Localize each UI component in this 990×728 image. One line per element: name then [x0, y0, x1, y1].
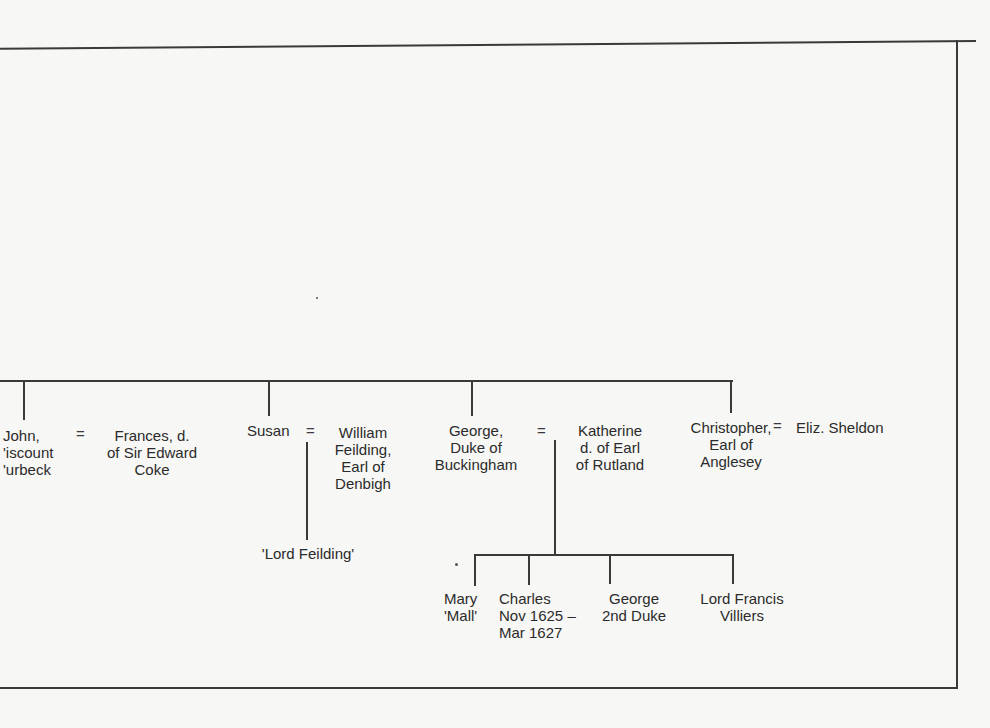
sibling-bar — [0, 380, 733, 382]
person-christopher: Christopher, Earl of Anglesey — [676, 419, 786, 470]
drop-line-christopher — [730, 380, 732, 413]
frame-top-border — [0, 40, 976, 50]
marriage-symbol-christopher: = — [773, 417, 782, 434]
marriage-symbol-susan: = — [306, 422, 315, 439]
print-speck — [316, 297, 318, 299]
person-charles: Charles Nov 1625 – Mar 1627 — [499, 590, 576, 641]
drop-line-george-2nd — [609, 554, 611, 584]
marriage-symbol-george: = — [537, 422, 546, 439]
frame-right-border — [956, 40, 958, 689]
frame-bottom-border — [0, 687, 958, 689]
person-john: John, 'iscount 'urbeck — [3, 427, 53, 478]
person-lord-feilding: 'Lord Feilding' — [246, 545, 370, 562]
children-bar-george — [474, 554, 734, 556]
drop-line-john — [23, 380, 25, 420]
drop-line-charles — [528, 554, 530, 585]
drop-line-mary — [474, 554, 476, 586]
person-eliz-sheldon: Eliz. Sheldon — [796, 419, 884, 436]
person-george-2nd-duke: George 2nd Duke — [594, 590, 674, 624]
person-william-feilding: William Feilding, Earl of Denbigh — [325, 424, 401, 492]
descent-line-susan — [306, 442, 308, 540]
person-susan: Susan — [247, 422, 290, 439]
person-mary-mall: Mary 'Mall' — [444, 590, 477, 624]
print-speck — [455, 563, 458, 566]
drop-line-francis — [732, 554, 734, 584]
family-tree-diagram: John, 'iscount 'urbeck = Frances, d. of … — [0, 0, 990, 728]
person-katherine: Katherine d. of Earl of Rutland — [568, 422, 652, 473]
marriage-symbol-john: = — [76, 425, 85, 442]
person-frances: Frances, d. of Sir Edward Coke — [100, 427, 204, 478]
person-george-buckingham: George, Duke of Buckingham — [420, 422, 532, 473]
person-lord-francis-villiers: Lord Francis Villiers — [692, 590, 792, 624]
descent-line-george — [554, 440, 556, 556]
drop-line-george — [471, 380, 473, 416]
drop-line-susan — [268, 380, 270, 416]
